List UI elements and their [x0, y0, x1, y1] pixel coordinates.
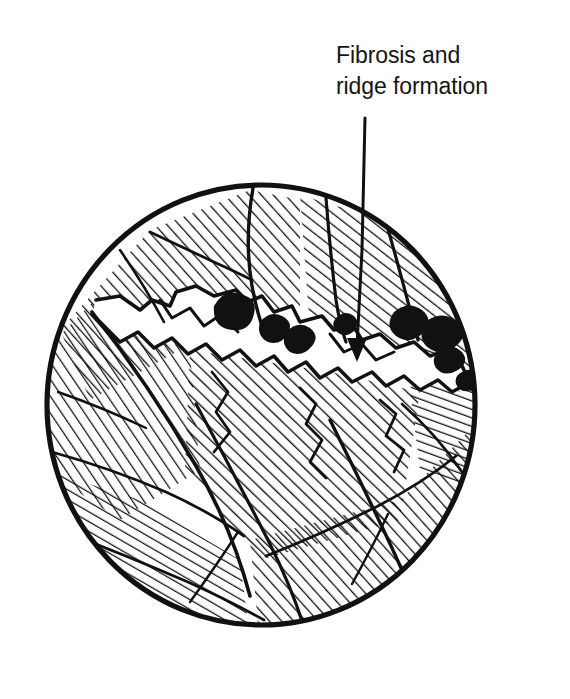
cross-section-drawing [0, 0, 570, 699]
specimen-hatching [0, 0, 570, 699]
figure-root: Fibrosis and ridge formation [0, 0, 570, 699]
